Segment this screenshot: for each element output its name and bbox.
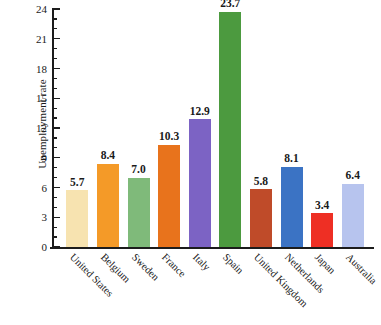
- x-category-label: Sweden: [129, 252, 160, 283]
- bar-value-label: 5.7: [70, 177, 84, 189]
- bar-group: 6.4: [342, 184, 364, 247]
- bar: [250, 189, 272, 247]
- bar-group: 8.4: [97, 164, 119, 247]
- bar: [189, 119, 211, 247]
- y-tick-label: 21: [36, 33, 47, 44]
- y-tick-label: 12: [36, 123, 47, 134]
- bar-value-label: 6.4: [346, 170, 360, 182]
- bar: [128, 178, 150, 247]
- bar-group: 7.0: [128, 178, 150, 247]
- bar: [97, 164, 119, 247]
- bar-group: 5.7: [66, 190, 88, 247]
- bar-value-label: 23.7: [220, 0, 240, 10]
- bar-value-label: 10.3: [159, 131, 179, 143]
- x-category-label: France: [160, 252, 188, 280]
- y-tick-label: 15: [36, 93, 47, 104]
- x-category-label: Australia: [343, 252, 378, 287]
- y-tick-label: 3: [42, 212, 48, 223]
- bar: [281, 167, 303, 247]
- bar-group: 23.7: [219, 12, 241, 247]
- bar-group: 8.1: [281, 167, 303, 247]
- bar: [158, 145, 180, 247]
- unemployment-rate-bar-chart: Unemployment rate 03691215182124 5.78.47…: [0, 0, 381, 325]
- x-category-label: Italy: [190, 252, 211, 273]
- y-tick-label: 24: [36, 4, 47, 15]
- bar-group: 5.8: [250, 189, 272, 247]
- bar: [311, 213, 333, 247]
- x-axis-category-labels: United StatesBelgiumSwedenFranceItalySpa…: [52, 250, 374, 325]
- y-tick-label: 6: [42, 182, 48, 193]
- bar-value-label: 8.1: [284, 153, 298, 165]
- bar-value-label: 8.4: [101, 150, 115, 162]
- bar: [219, 12, 241, 247]
- bar-value-label: 12.9: [190, 106, 210, 118]
- bar-value-label: 3.4: [315, 200, 329, 212]
- bar-group: 12.9: [189, 119, 211, 247]
- y-tick-label: 18: [36, 63, 47, 74]
- bar-group: 10.3: [158, 145, 180, 247]
- bar: [66, 190, 88, 247]
- bars-layer: 5.78.47.010.312.923.75.88.13.46.4: [52, 8, 374, 248]
- x-category-label: Spain: [221, 252, 245, 276]
- bar: [342, 184, 364, 247]
- bar-value-label: 7.0: [131, 164, 145, 176]
- bar-value-label: 5.8: [254, 176, 268, 188]
- bar-group: 3.4: [311, 213, 333, 247]
- y-tick-label: 0: [42, 242, 48, 253]
- plot-area: 03691215182124 5.78.47.010.312.923.75.88…: [52, 8, 374, 248]
- y-tick-label: 9: [42, 152, 48, 163]
- x-category-label: Japan: [313, 252, 337, 276]
